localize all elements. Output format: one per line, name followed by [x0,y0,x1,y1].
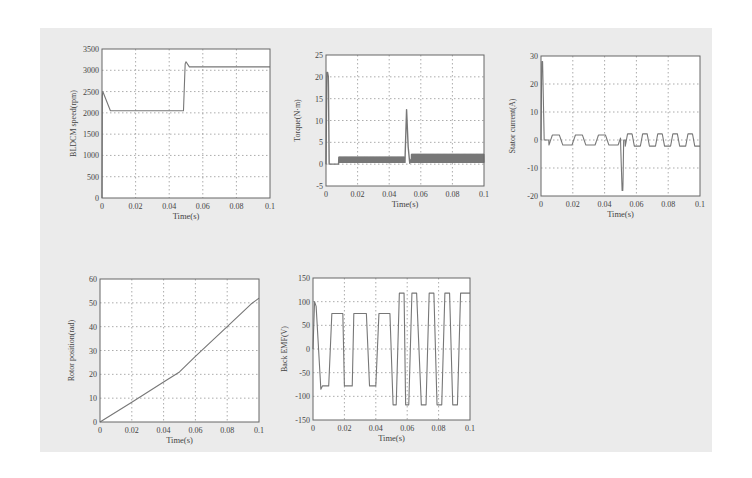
svg-text:0.06: 0.06 [414,190,428,199]
svg-text:0.06: 0.06 [196,202,210,211]
svg-text:BLDCM speed(rpm): BLDCM speed(rpm) [69,90,78,157]
svg-text:Time(s): Time(s) [173,211,200,221]
svg-text:0.04: 0.04 [162,202,176,211]
svg-text:Rotor position(rad): Rotor position(rad) [67,319,76,381]
svg-text:5: 5 [319,138,323,147]
svg-text:20: 20 [530,80,538,89]
plot-back-emf: 00.020.040.060.080.1-150-100-50050100150… [313,278,470,420]
svg-text:2500: 2500 [83,88,99,97]
svg-text:-10: -10 [527,164,538,173]
svg-text:0.08: 0.08 [229,202,243,211]
svg-text:0: 0 [98,426,102,435]
svg-text:Back EMF(V): Back EMF(V) [280,326,289,372]
svg-text:Time(s): Time(s) [607,209,634,219]
svg-text:50: 50 [89,299,97,308]
svg-text:0.08: 0.08 [220,426,234,435]
svg-text:Time(s): Time(s) [166,435,193,445]
svg-text:0: 0 [93,418,97,427]
svg-text:-5: -5 [316,182,323,191]
svg-text:0.02: 0.02 [125,426,139,435]
svg-text:Torque(N·m): Torque(N·m) [293,99,302,142]
svg-text:0.08: 0.08 [445,190,459,199]
svg-text:0: 0 [534,136,538,145]
svg-text:-50: -50 [299,369,310,378]
svg-text:30: 30 [89,347,97,356]
svg-text:10: 10 [89,394,97,403]
plot-stator-current: 00.020.040.060.080.1-20-100102030Time(s)… [541,56,700,196]
svg-text:0.02: 0.02 [337,424,351,433]
svg-text:60: 60 [89,275,97,284]
svg-text:0.1: 0.1 [254,426,264,435]
svg-text:500: 500 [87,173,99,182]
svg-text:20: 20 [315,73,323,82]
svg-text:0: 0 [306,345,310,354]
svg-text:1500: 1500 [83,130,99,139]
svg-text:25: 25 [315,51,323,60]
svg-text:0.02: 0.02 [566,200,580,209]
plot-speed: 00.020.040.060.080.105001000150020002500… [102,49,270,198]
svg-text:0.02: 0.02 [129,202,143,211]
plot-torque: 00.020.040.060.080.1-50510152025Time(s)T… [326,55,484,186]
svg-text:0: 0 [539,200,543,209]
svg-text:-150: -150 [295,416,310,425]
svg-text:10: 10 [315,117,323,126]
svg-text:0.04: 0.04 [157,426,171,435]
svg-text:0: 0 [100,202,104,211]
svg-text:0.04: 0.04 [369,424,383,433]
svg-text:-100: -100 [295,392,310,401]
svg-text:0: 0 [324,190,328,199]
svg-text:0.04: 0.04 [382,190,396,199]
svg-text:0.06: 0.06 [188,426,202,435]
svg-text:3500: 3500 [83,45,99,54]
svg-text:Stator current(A): Stator current(A) [508,98,517,153]
svg-text:100: 100 [298,298,310,307]
svg-text:0.06: 0.06 [629,200,643,209]
svg-text:0: 0 [319,160,323,169]
svg-text:0.1: 0.1 [465,424,475,433]
svg-text:0.1: 0.1 [695,200,705,209]
svg-text:150: 150 [298,274,310,283]
svg-text:10: 10 [530,108,538,117]
svg-text:0.04: 0.04 [598,200,612,209]
svg-text:30: 30 [530,52,538,61]
svg-text:0.02: 0.02 [351,190,365,199]
svg-text:Time(s): Time(s) [378,433,405,443]
svg-text:-20: -20 [527,192,538,201]
svg-text:20: 20 [89,370,97,379]
svg-text:2000: 2000 [83,109,99,118]
svg-text:1000: 1000 [83,151,99,160]
svg-text:0.1: 0.1 [265,202,275,211]
svg-text:0.06: 0.06 [400,424,414,433]
svg-text:0: 0 [95,194,99,203]
svg-text:0.08: 0.08 [432,424,446,433]
svg-text:0.08: 0.08 [661,200,675,209]
svg-text:15: 15 [315,95,323,104]
svg-text:0: 0 [311,424,315,433]
svg-text:40: 40 [89,323,97,332]
svg-text:3000: 3000 [83,66,99,75]
svg-text:50: 50 [302,321,310,330]
svg-text:Time(s): Time(s) [392,199,419,209]
plot-rotor-position: 00.020.040.060.080.10102030405060Time(s)… [100,279,259,422]
svg-text:0.1: 0.1 [479,190,489,199]
